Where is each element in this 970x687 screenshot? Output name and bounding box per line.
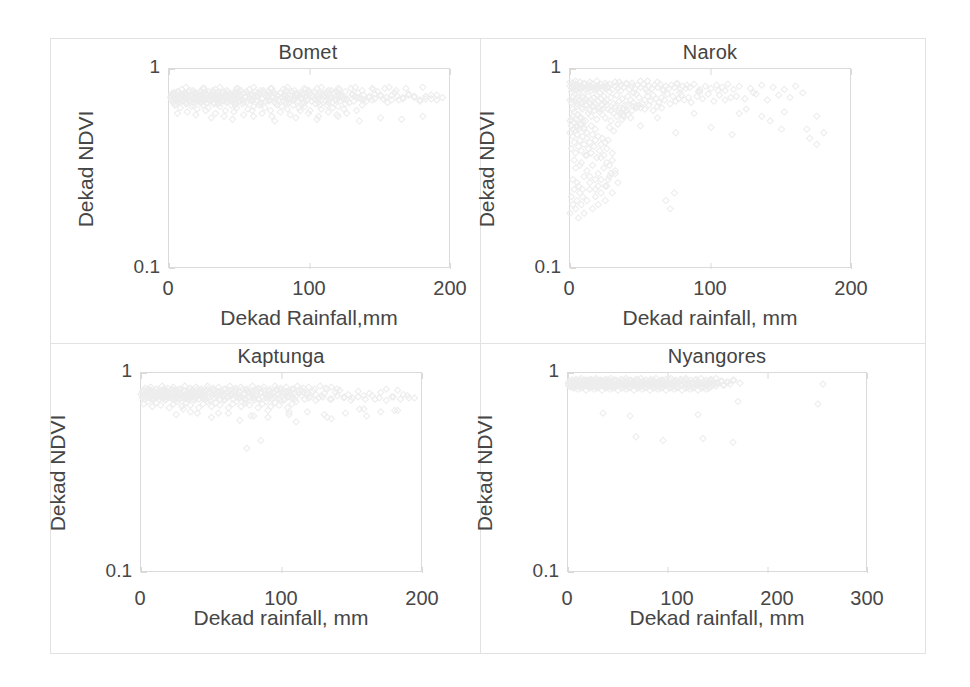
panel-kaptunga: Kaptunga 1 0.1 0 100 200 Dekad rainfall,… bbox=[50, 344, 480, 654]
figure-root: Bomet 1 0.1 0 100 200 Dekad Rainfall,mm … bbox=[0, 0, 970, 687]
panel-title-narok: Narok bbox=[630, 41, 790, 64]
ytick-label-kaptunga-1: 1 bbox=[90, 360, 132, 382]
xtick-label-narok-0: 0 bbox=[549, 277, 589, 300]
plot-area-narok bbox=[569, 68, 851, 268]
panel-title-nyangores: Nyangores bbox=[637, 345, 797, 368]
xaxis-title-nyangores: Dekad rainfall, mm bbox=[567, 606, 867, 630]
xtick-label-bomet-100: 100 bbox=[279, 277, 339, 300]
ytick-label-narok-01: 0.1 bbox=[509, 256, 561, 278]
scatter-points-nyangores bbox=[568, 373, 868, 573]
yaxis-title-narok: Dekad NDVI bbox=[475, 89, 499, 249]
scatter-points-narok bbox=[570, 69, 852, 269]
panel-bomet: Bomet 1 0.1 0 100 200 Dekad Rainfall,mm … bbox=[50, 38, 480, 343]
panel-title-kaptunga: Kaptunga bbox=[201, 345, 361, 368]
scatter-points-kaptunga bbox=[141, 373, 423, 573]
xtick-label-narok-200: 200 bbox=[821, 277, 881, 300]
panel-title-bomet: Bomet bbox=[228, 41, 388, 64]
panel-narok: Narok 1 0.1 0 100 200 Dekad rainfall, mm… bbox=[481, 38, 926, 343]
xtick-label-bomet-0: 0 bbox=[148, 277, 188, 300]
xaxis-title-narok: Dekad rainfall, mm bbox=[560, 306, 860, 330]
yaxis-title-kaptunga: Dekad NDVI bbox=[46, 393, 70, 553]
ytick-label-bomet-01: 0.1 bbox=[108, 256, 160, 278]
ytick-label-nyangores-1: 1 bbox=[517, 360, 559, 382]
scatter-points-bomet bbox=[169, 69, 451, 269]
xaxis-title-bomet: Dekad Rainfall,mm bbox=[159, 306, 459, 330]
yaxis-title-bomet: Dekad NDVI bbox=[74, 89, 98, 249]
xaxis-title-kaptunga: Dekad rainfall, mm bbox=[131, 606, 431, 630]
xtick-label-bomet-200: 200 bbox=[420, 277, 480, 300]
plot-area-bomet bbox=[168, 68, 450, 268]
ytick-label-kaptunga-01: 0.1 bbox=[80, 560, 132, 582]
ytick-label-bomet-1: 1 bbox=[118, 56, 160, 78]
plot-area-nyangores bbox=[567, 372, 867, 572]
ytick-label-nyangores-01: 0.1 bbox=[507, 560, 559, 582]
yaxis-title-nyangores: Dekad NDVI bbox=[473, 393, 497, 553]
panel-nyangores: Nyangores 1 0.1 0 100 200 300 Dekad rain… bbox=[481, 344, 926, 654]
xtick-label-narok-100: 100 bbox=[680, 277, 740, 300]
plot-area-kaptunga bbox=[140, 372, 422, 572]
ytick-label-narok-1: 1 bbox=[519, 56, 561, 78]
